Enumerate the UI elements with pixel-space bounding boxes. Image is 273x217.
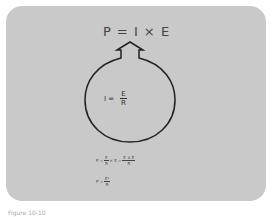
denominator: R [106, 182, 109, 187]
derivation-mid: × E = [110, 158, 122, 163]
result-formula: P = E² R [96, 176, 110, 187]
numerator: E [120, 90, 126, 99]
derivation-prefix: P = [96, 158, 103, 163]
derivation-formula: P = E R × E = E × E R [96, 155, 135, 166]
result-fraction: E² R [104, 176, 110, 187]
fraction-1: E R [104, 155, 109, 166]
current-formula: I = E R [104, 90, 127, 107]
fraction-2: E × E R [122, 155, 135, 166]
denominator: R [127, 161, 130, 166]
result-prefix: P = [96, 179, 103, 184]
denominator: R [121, 99, 126, 107]
figure-caption: Figure 10-10 [8, 209, 46, 216]
balloon-arrow-icon [0, 0, 273, 217]
denominator: R [105, 161, 108, 166]
current-lhs: I = [104, 95, 114, 103]
e-over-r-fraction: E R [120, 90, 126, 107]
